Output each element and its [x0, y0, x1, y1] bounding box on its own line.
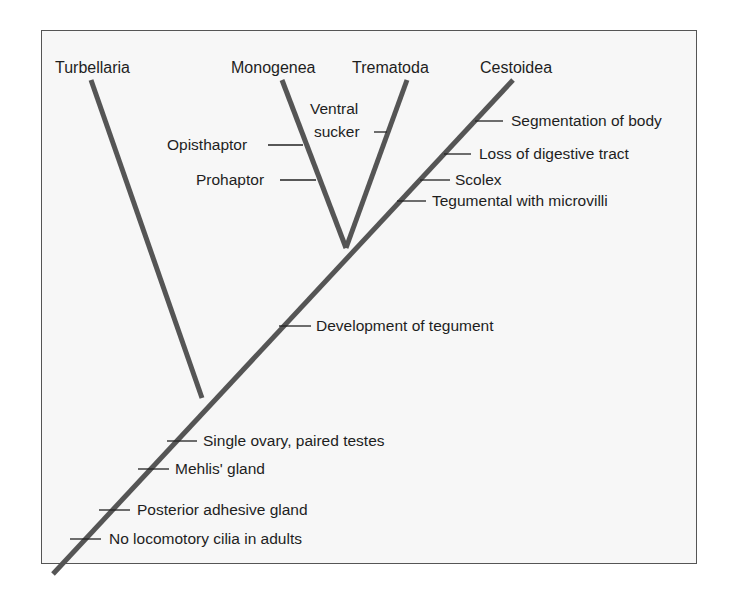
char-mehlis: Mehlis' gland — [175, 461, 265, 477]
char-prohaptor: Prohaptor — [196, 172, 264, 188]
taxon-turbellaria: Turbellaria — [55, 60, 130, 76]
char-ventral-line2: sucker — [314, 124, 360, 140]
cladogram-branches — [0, 0, 735, 589]
branch-turbellaria — [91, 80, 202, 398]
char-posterior-adhesive: Posterior adhesive gland — [137, 502, 308, 518]
taxon-monogenea: Monogenea — [231, 60, 316, 76]
char-scolex: Scolex — [455, 172, 502, 188]
taxon-trematoda: Trematoda — [352, 60, 429, 76]
char-development-tegument: Development of tegument — [316, 318, 494, 334]
taxon-cestoidea: Cestoidea — [480, 60, 552, 76]
char-segmentation: Segmentation of body — [511, 113, 662, 129]
char-loss-digestive: Loss of digestive tract — [479, 146, 629, 162]
char-tegumental: Tegumental with microvilli — [432, 193, 608, 209]
char-no-cilia: No locomotory cilia in adults — [109, 531, 302, 547]
char-opisthaptor: Opisthaptor — [167, 137, 247, 153]
char-ventral-line1: Ventral — [310, 101, 358, 117]
char-single-ovary: Single ovary, paired testes — [203, 433, 385, 449]
